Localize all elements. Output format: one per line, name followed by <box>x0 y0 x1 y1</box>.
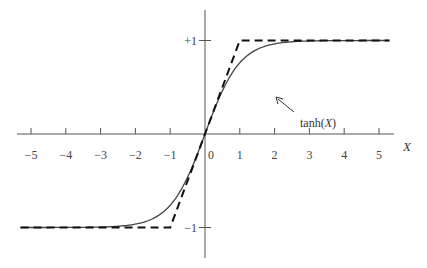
x-tick-label: −3 <box>94 148 107 162</box>
tanh-chart: −5−4−3−2−1012345+1−1X tanh(X) <box>0 0 427 268</box>
x-tick-label: −1 <box>164 148 177 162</box>
x-tick-label: 5 <box>376 148 382 162</box>
annotation-arrow-shaft <box>278 99 294 112</box>
x-tick-label: −4 <box>59 148 72 162</box>
x-tick-label: 1 <box>237 148 243 162</box>
x-tick-label: 4 <box>341 148 347 162</box>
x-tick-label: 2 <box>272 148 278 162</box>
x-tick-label: −5 <box>25 148 38 162</box>
y-tick-label: +1 <box>184 34 197 48</box>
x-tick-label: 3 <box>306 148 312 162</box>
x-axis-title: X <box>402 139 412 154</box>
x-tick-label: 0 <box>208 148 214 162</box>
annotation-layer: tanh(X) <box>276 97 336 130</box>
annotation-label: tanh(X) <box>300 116 336 130</box>
y-tick-label: −1 <box>184 221 197 235</box>
x-tick-label: −2 <box>129 148 142 162</box>
